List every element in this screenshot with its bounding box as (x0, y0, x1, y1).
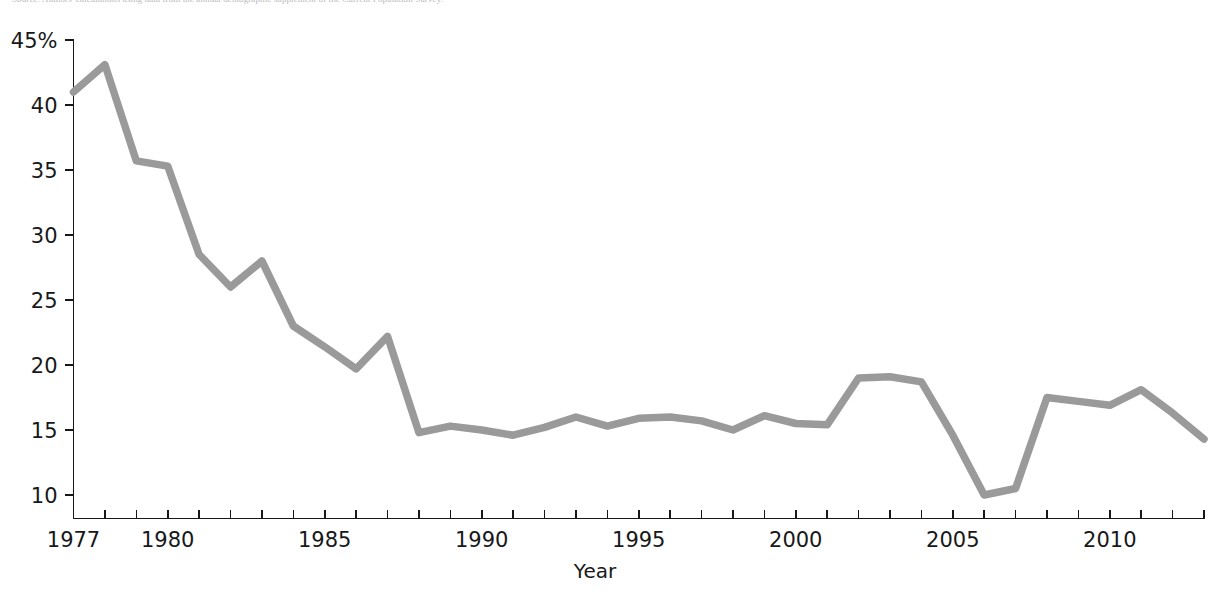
data-series-layer (74, 65, 1205, 495)
x-tick-label: 1980 (141, 528, 194, 552)
y-tick-label: 40 (31, 94, 58, 118)
x-tick-label: 1977 (47, 528, 100, 552)
y-tick-label: 35 (31, 159, 58, 183)
x-tick-label: 1995 (612, 528, 665, 552)
y-tick-label: 10 (31, 484, 58, 508)
y-tick-label: 30 (31, 224, 58, 248)
y-tick-label: 15 (31, 419, 58, 443)
series-line (74, 65, 1205, 495)
y-axis: 1015202530354045% (11, 29, 74, 519)
x-tick-label: 1985 (298, 528, 351, 552)
x-tick-label: 1990 (455, 528, 508, 552)
y-tick-label: 25 (31, 289, 58, 313)
x-tick-label: 2000 (769, 528, 822, 552)
line-chart-plot: 1015202530354045% 1977198019851990199520… (0, 0, 1222, 598)
x-tick-label: 2005 (926, 528, 979, 552)
x-axis-title: Year (573, 559, 617, 583)
x-tick-label: 2010 (1083, 528, 1136, 552)
x-axis: 19771980198519901995200020052010 (47, 510, 1204, 552)
y-tick-label: 45% (11, 29, 58, 53)
chart-figure: Source: Authors' calculations using data… (0, 0, 1222, 598)
y-tick-label: 20 (31, 354, 58, 378)
